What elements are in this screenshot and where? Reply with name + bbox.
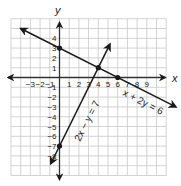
y-tick-label: −2 <box>47 93 57 102</box>
x-tick-label: 5 <box>106 80 111 89</box>
y-tick-label: −7 <box>47 142 57 151</box>
y-tick-label: 4 <box>52 34 57 43</box>
y-tick-label: −3 <box>47 103 57 112</box>
point-marker <box>57 46 62 51</box>
y-tick-label: −6 <box>47 132 57 141</box>
x-tick-label: 2 <box>77 80 82 89</box>
axis-and-line-labels: y x x + 2y = 6 2x − y = 7 <box>54 4 178 143</box>
x-tick-label: 6 <box>115 80 120 89</box>
point-marker <box>96 65 101 70</box>
x-tick-label: 1 <box>67 80 72 89</box>
y-axis-label: y <box>54 4 62 16</box>
y-tick-label: −5 <box>47 123 57 132</box>
x-tick-label: −3 <box>26 80 36 89</box>
point-marker <box>57 144 62 149</box>
coordinate-graph: −3−2−11234567894321−1−2−3−4−5−6−7−8 y x … <box>0 0 181 186</box>
y-tick-label: −4 <box>47 113 57 122</box>
point-marker <box>115 75 120 80</box>
x-axis-label: x <box>171 72 178 84</box>
x-tick-label: −2 <box>36 80 46 89</box>
x-tick-label: 9 <box>145 80 150 89</box>
y-tick-label: −1 <box>47 83 57 92</box>
x-tick-label: 4 <box>96 80 101 89</box>
y-tick-label: 1 <box>52 64 57 73</box>
y-tick-label: 2 <box>52 54 57 63</box>
